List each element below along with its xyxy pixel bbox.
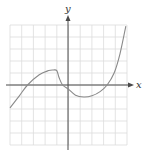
y-axis-arrow-icon [66,15,71,21]
x-axis-arrow-icon [128,83,134,88]
y-axis-label: y [64,3,71,14]
x-axis-label: x [136,79,142,90]
function-graph: x y [0,0,143,153]
